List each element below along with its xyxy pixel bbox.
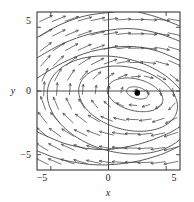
y-tick-label-minus5: −5	[20, 149, 31, 160]
y-tick-label-0: 0	[26, 85, 31, 96]
phase-portrait-figure: 5 0 −5 −5 0 5 y x	[0, 0, 194, 202]
direction-field-plot: 5 0 −5 −5 0 5 y x	[0, 0, 194, 202]
field-arrow-shaft	[126, 119, 138, 120]
x-tick-label-0: 0	[106, 172, 111, 183]
y-tick-label-5: 5	[26, 15, 31, 26]
x-axis-label: x	[105, 187, 111, 198]
plot-background	[0, 0, 194, 202]
equilibrium-center-point	[135, 90, 141, 96]
x-tick-label-5: 5	[172, 172, 177, 183]
y-axis-label: y	[10, 85, 16, 96]
x-tick-label-minus5: −5	[37, 172, 48, 183]
